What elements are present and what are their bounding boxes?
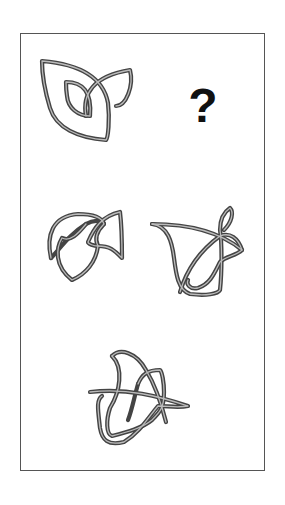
question-mark: ? — [183, 78, 223, 134]
figure-bottom-center — [88, 348, 198, 452]
shield-knot-figure — [48, 206, 128, 288]
figure-middle-left — [48, 206, 128, 288]
cup-knot-figure — [150, 202, 250, 298]
figure-top-left — [38, 58, 138, 148]
figure-middle-right — [150, 202, 250, 298]
fin-knot-figure — [88, 348, 198, 452]
leaf-knot-figure — [38, 58, 138, 148]
